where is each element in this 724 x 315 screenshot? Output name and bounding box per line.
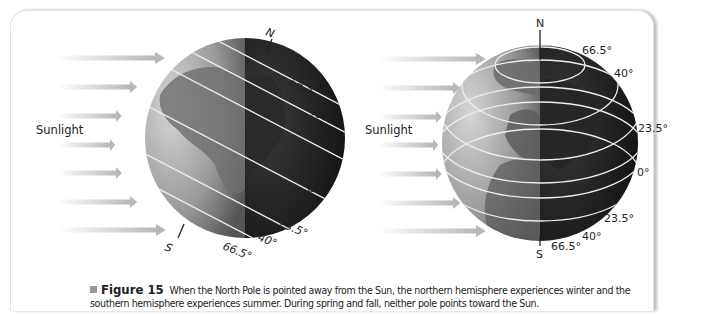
right-lat-n23: 23.5° [638, 122, 668, 135]
right-south-label: S [536, 248, 543, 261]
caption-text: When the North Pole is pointed away from… [90, 284, 630, 309]
right-lat-n40: 40° [614, 67, 634, 80]
right-north-label: N [536, 17, 544, 30]
caption-bullet-icon [90, 286, 97, 293]
left-sunlight-label: Sunlight [36, 123, 84, 137]
figure-number: Figure 15 [101, 282, 164, 297]
left-lat-s66: 66.5° [221, 240, 254, 263]
right-lat-n66: 66.5° [582, 44, 612, 57]
right-lat-equator: 0° [637, 166, 650, 179]
figure-caption: Figure 15 When the North Pole is pointed… [90, 283, 650, 310]
left-lat-s40: 40° [256, 231, 279, 250]
figure-illustration: Sunlight N S 66.5° 40° 23.5° 0 [0, 0, 724, 280]
right-lat-s40: 40° [582, 230, 602, 243]
right-sunlight-label: Sunlight [365, 123, 413, 137]
left-north-label: N [264, 26, 276, 41]
right-lat-s23: 23.5° [604, 212, 634, 225]
left-south-axis [178, 224, 184, 238]
left-south-label: S [163, 241, 174, 256]
right-lat-s66: 66.5° [551, 240, 581, 253]
